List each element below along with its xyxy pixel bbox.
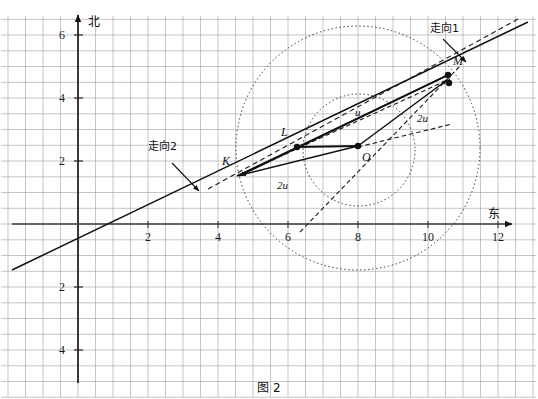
point-M2 xyxy=(446,80,452,86)
vector-label-2u-left: 2u xyxy=(277,179,289,191)
y-tick-label-2: 2 xyxy=(59,154,65,168)
y-tick-label-6: 6 xyxy=(59,28,65,42)
point-O xyxy=(355,143,361,149)
coordinate-plot: 2468101264224 北 东 xyxy=(0,0,538,399)
vector-label-2u-right: 2u xyxy=(417,112,429,124)
x-tick-label-2: 2 xyxy=(145,230,151,244)
y-tick-label-4: 4 xyxy=(59,91,65,105)
y-axis-name: 北 xyxy=(88,15,100,29)
annotation-strike1: 走向1 xyxy=(430,21,459,35)
x-tick-label-8: 8 xyxy=(355,230,361,244)
vector-L-to-O xyxy=(297,146,358,147)
x-tick-label-10: 10 xyxy=(422,230,434,244)
point-M xyxy=(445,72,451,78)
annotation-strike2: 走向2 xyxy=(148,139,177,153)
x-tick-label-6: 6 xyxy=(285,230,291,244)
point-label-O: O xyxy=(362,150,371,164)
point-label-M: M xyxy=(452,54,464,68)
y-tick-label--4: 4 xyxy=(59,343,65,357)
x-axis-name: 东 xyxy=(488,207,500,221)
figure-caption: 图 2 xyxy=(0,378,538,395)
x-tick-label-4: 4 xyxy=(215,230,221,244)
y-tick-label--2: 2 xyxy=(59,280,65,294)
vector-label-u-upper: u xyxy=(355,106,361,118)
point-L xyxy=(294,144,300,150)
point-label-L: L xyxy=(280,125,288,139)
x-tick-label-12: 12 xyxy=(492,230,504,244)
figure-2: 2468101264224 北 东 xyxy=(0,0,538,399)
point-label-K: K xyxy=(221,154,231,168)
